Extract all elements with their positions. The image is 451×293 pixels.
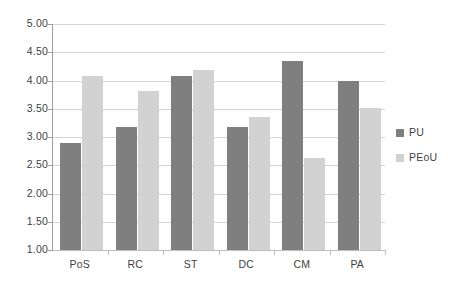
x-axis-tick: [385, 250, 386, 255]
x-axis-tick-label: PoS: [50, 258, 110, 270]
plot-area: [52, 24, 385, 250]
bar-chart: 5.004.504.003.503.002.502.001.501.00 PoS…: [0, 0, 451, 293]
x-axis-tick-label: ST: [161, 258, 221, 270]
y-axis-tick: [46, 250, 52, 251]
chart-legend: PU PEoU: [396, 124, 451, 174]
x-axis-tick-label: DC: [216, 258, 276, 270]
bar-pu-pa[interactable]: [338, 81, 359, 251]
bar-pu-dc[interactable]: [227, 127, 248, 250]
y-axis-tick: [46, 52, 52, 53]
bar-peou-rc[interactable]: [138, 91, 159, 250]
y-axis-labels: 5.004.504.003.503.002.502.001.501.00: [0, 0, 48, 293]
x-axis-tick: [163, 250, 164, 255]
bar-pu-pos[interactable]: [60, 143, 81, 250]
bar-group: [274, 24, 330, 250]
bar-peou-pos[interactable]: [82, 76, 103, 250]
y-axis-tick-label: 1.00: [2, 244, 48, 255]
x-axis-tick: [274, 250, 275, 255]
y-axis-tick-label: 3.00: [2, 131, 48, 142]
x-axis-tick: [219, 250, 220, 255]
y-axis-tick: [46, 24, 52, 25]
y-axis-tick: [46, 137, 52, 138]
bar-group: [108, 24, 164, 250]
legend-item-peou[interactable]: PEoU: [396, 149, 451, 166]
x-axis-tick: [330, 250, 331, 255]
legend-swatch-peou: [396, 154, 404, 162]
legend-label-pu: PU: [409, 127, 424, 138]
x-axis-tick-label: RC: [105, 258, 165, 270]
bar-peou-dc[interactable]: [249, 117, 270, 250]
y-axis-tick: [46, 222, 52, 223]
x-axis-tick-label: CM: [272, 258, 332, 270]
bar-pu-rc[interactable]: [116, 127, 137, 250]
x-axis-tick-label: PA: [327, 258, 387, 270]
bar-peou-cm[interactable]: [304, 158, 325, 250]
y-axis-tick: [46, 109, 52, 110]
y-axis-tick: [46, 194, 52, 195]
legend-label-peou: PEoU: [409, 152, 437, 163]
y-axis-tick-label: 4.00: [2, 75, 48, 86]
y-axis-tick-label: 5.00: [2, 18, 48, 29]
x-axis-labels: PoSRCSTDCCMPA: [52, 258, 385, 276]
bar-group: [163, 24, 219, 250]
bar-group: [52, 24, 108, 250]
y-axis-tick: [46, 81, 52, 82]
legend-swatch-pu: [396, 129, 404, 137]
y-axis-line: [52, 24, 53, 251]
y-axis-tick-label: 4.50: [2, 46, 48, 57]
y-axis-tick-label: 3.50: [2, 103, 48, 114]
bar-peou-pa[interactable]: [360, 108, 381, 250]
bar-pu-st[interactable]: [171, 76, 192, 250]
bar-pu-cm[interactable]: [282, 61, 303, 250]
y-axis-tick: [46, 165, 52, 166]
x-axis-tick: [108, 250, 109, 255]
legend-item-pu[interactable]: PU: [396, 124, 451, 141]
y-axis-tick-label: 1.50: [2, 216, 48, 227]
bar-group: [330, 24, 386, 250]
y-axis-tick-label: 2.00: [2, 188, 48, 199]
bar-peou-st[interactable]: [193, 70, 214, 250]
y-axis-tick-label: 2.50: [2, 159, 48, 170]
bar-group: [219, 24, 275, 250]
